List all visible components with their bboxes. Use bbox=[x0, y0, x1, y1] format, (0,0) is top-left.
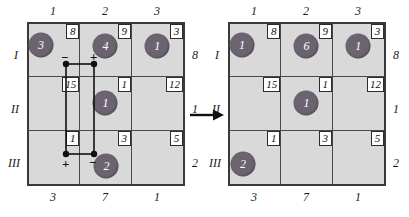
right-cell-I-1: 8 1 bbox=[230, 24, 281, 77]
left-column-header-2: 2 bbox=[79, 4, 131, 19]
right-demand-3: 1 bbox=[332, 190, 384, 205]
right-cell-III-3: 5 bbox=[333, 131, 384, 184]
right-cost-II-2: 1 bbox=[319, 77, 332, 92]
left-tableau: 8 3 9 4 3 1 15 1 1 12 1 bbox=[27, 22, 185, 186]
left-cost-I-1: 8 bbox=[66, 24, 79, 39]
loop-sign-I-1: − bbox=[61, 51, 68, 64]
loop-sign-III-1: + bbox=[62, 157, 69, 170]
right-cost-II-1: 15 bbox=[263, 77, 280, 92]
right-cost-III-3: 5 bbox=[371, 131, 384, 146]
right-grid: 8 1 9 6 3 1 15 1 1 12 1 2 bbox=[230, 24, 384, 184]
right-cell-I-2: 9 6 bbox=[281, 24, 332, 77]
left-cell-III-1: 1 bbox=[29, 131, 80, 184]
left-cost-III-2: 3 bbox=[118, 131, 131, 146]
left-cell-I-1: 8 3 bbox=[29, 24, 80, 77]
left-demand-2: 7 bbox=[79, 190, 131, 205]
right-column-header-3: 3 bbox=[332, 4, 384, 19]
left-alloc-I-3: 1 bbox=[145, 33, 170, 58]
right-row-header-I: I bbox=[215, 48, 219, 63]
left-row-header-III: III bbox=[8, 156, 20, 171]
left-alloc-II-2: 1 bbox=[93, 91, 118, 116]
right-row-header-II: II bbox=[212, 102, 220, 117]
left-alloc-III-2: 2 bbox=[94, 153, 119, 178]
right-cell-III-2: 3 bbox=[281, 131, 332, 184]
left-column-header-3: 3 bbox=[131, 4, 183, 19]
left-cell-II-3: 12 bbox=[132, 77, 183, 130]
right-cost-III-2: 3 bbox=[319, 131, 332, 146]
right-cost-II-3: 12 bbox=[367, 77, 384, 92]
left-supply-I: 8 bbox=[192, 48, 198, 63]
right-cell-II-2: 1 1 bbox=[281, 77, 332, 130]
right-cost-I-2: 9 bbox=[319, 24, 332, 39]
right-supply-II: 1 bbox=[393, 102, 399, 117]
right-alloc-I-2: 6 bbox=[294, 33, 319, 58]
loop-sign-I-2: + bbox=[90, 50, 97, 63]
left-cost-II-2: 1 bbox=[118, 77, 131, 92]
right-cell-II-3: 12 bbox=[333, 77, 384, 130]
right-alloc-I-1: 1 bbox=[230, 32, 255, 57]
left-cost-I-3: 3 bbox=[170, 24, 183, 39]
right-column-header-1: 1 bbox=[228, 4, 280, 19]
right-row-header-III: III bbox=[209, 156, 221, 171]
right-column-header-2: 2 bbox=[280, 4, 332, 19]
right-cell-II-1: 15 bbox=[230, 77, 281, 130]
left-cost-III-1: 1 bbox=[66, 131, 79, 146]
left-cell-II-1: 15 bbox=[29, 77, 80, 130]
right-cell-I-3: 3 1 bbox=[333, 24, 384, 77]
left-grid: 8 3 9 4 3 1 15 1 1 12 1 bbox=[29, 24, 183, 184]
left-cell-II-2: 1 1 bbox=[80, 77, 131, 130]
right-supply-I: 8 bbox=[393, 48, 399, 63]
right-tableau: 8 1 9 6 3 1 15 1 1 12 1 2 bbox=[228, 22, 386, 186]
right-alloc-II-2: 1 bbox=[294, 91, 319, 116]
right-cell-III-1: 1 2 bbox=[230, 131, 281, 184]
left-cost-III-3: 5 bbox=[170, 131, 183, 146]
left-supply-III: 2 bbox=[192, 156, 198, 171]
left-cell-III-3: 5 bbox=[132, 131, 183, 184]
left-row-header-II: II bbox=[11, 102, 19, 117]
right-alloc-III-1: 2 bbox=[231, 151, 256, 176]
left-cost-I-2: 9 bbox=[118, 24, 131, 39]
left-cost-II-3: 12 bbox=[166, 77, 183, 92]
right-cost-I-1: 8 bbox=[267, 24, 280, 39]
left-cell-I-2: 9 4 bbox=[80, 24, 131, 77]
right-alloc-I-3: 1 bbox=[346, 33, 371, 58]
right-supply-III: 2 bbox=[393, 156, 399, 171]
right-cost-I-3: 3 bbox=[371, 24, 384, 39]
left-row-header-I: I bbox=[14, 48, 18, 63]
loop-sign-III-2: − bbox=[89, 156, 96, 169]
right-demand-1: 3 bbox=[228, 190, 280, 205]
figure-stage: 1 2 3 I II III 8 1 2 3 7 1 8 3 9 4 3 1 1… bbox=[0, 0, 409, 217]
right-demand-2: 7 bbox=[280, 190, 332, 205]
left-cost-II-1: 15 bbox=[62, 77, 79, 92]
left-alloc-I-1: 3 bbox=[29, 32, 54, 57]
left-cell-I-3: 3 1 bbox=[132, 24, 183, 77]
left-demand-1: 3 bbox=[27, 190, 79, 205]
left-demand-3: 1 bbox=[131, 190, 183, 205]
right-cost-III-1: 1 bbox=[267, 131, 280, 146]
left-column-header-1: 1 bbox=[27, 4, 79, 19]
